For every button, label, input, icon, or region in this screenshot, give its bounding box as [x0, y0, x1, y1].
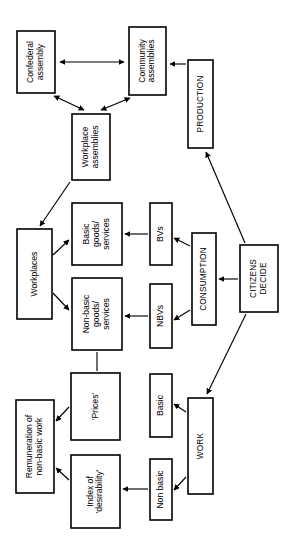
node-label-line: services [101, 298, 111, 330]
edge-prices-remuneration [56, 407, 69, 421]
node-label-consumption: CONSUMPTION [199, 247, 208, 311]
edge-index-remuneration [56, 468, 69, 480]
edge-workplaces-nonbasic [53, 293, 69, 310]
node-label-community-assemblies: Communityassemblies [137, 39, 157, 83]
node-label-citizens-decide: CITIZENSDECIDE [249, 259, 268, 298]
node-prices[interactable]: 'Prices' [71, 373, 120, 440]
node-label-work: WORK [196, 433, 205, 460]
node-community-assemblies[interactable]: Communityassemblies [129, 27, 166, 95]
node-label-line: Non basic [155, 470, 165, 509]
node-label-line: Workplaces [29, 252, 39, 297]
node-label-basic: Basic [155, 394, 165, 416]
flowchart-diagram: ConfederalassemblyCommunityassembliesWor… [0, 0, 296, 546]
edge-workplaces-basic [53, 240, 69, 255]
node-citizens-decide[interactable]: CITIZENSDECIDE [240, 245, 278, 312]
node-label-line: CONSUMPTION [199, 247, 208, 311]
node-label-line: Remuneration of [24, 414, 34, 478]
edge-work-basic [174, 404, 186, 412]
node-label-line: assemblies [90, 126, 100, 169]
node-nbvs[interactable]: NBVs [150, 284, 172, 348]
node-confederal-assembly[interactable]: Confederalassembly [17, 31, 55, 93]
node-label-line: 'desirability' [95, 469, 105, 513]
node-label-line: 'Prices' [90, 393, 100, 421]
node-label-line: assembly [35, 43, 45, 80]
edge-citizens-work [207, 314, 246, 394]
node-label-prices: 'Prices' [90, 393, 100, 421]
node-label-line: BVs [155, 226, 165, 242]
node-label-line: goods/ [91, 300, 101, 326]
node-workplaces[interactable]: Workplaces [17, 229, 52, 319]
node-label-line: DECIDE [259, 262, 268, 294]
edge-consumption-bvs [174, 238, 190, 246]
node-label-line: Basic [155, 394, 165, 416]
node-label-workplace-assemblies: Workplaceassemblies [80, 126, 100, 169]
node-consumption[interactable]: CONSUMPTION [192, 233, 216, 325]
flowchart-canvas: ConfederalassemblyCommunityassembliesWor… [0, 0, 296, 546]
nodes-layer: ConfederalassemblyCommunityassembliesWor… [16, 27, 278, 528]
node-production[interactable]: PRODUCTION [188, 60, 213, 148]
node-label-line: Community [137, 39, 147, 83]
node-label-line: NBVs [155, 305, 165, 327]
node-bvs[interactable]: BVs [150, 203, 172, 265]
node-workplace-assemblies[interactable]: Workplaceassemblies [72, 114, 110, 180]
node-label-line: PRODUCTION [196, 75, 205, 132]
node-label-nbvs: NBVs [155, 305, 165, 327]
node-work[interactable]: WORK [188, 398, 213, 494]
node-non-basic-goods-services[interactable]: Non-basicgoods/services [72, 278, 122, 350]
node-label-line: Index of [85, 476, 95, 507]
node-label-bvs: BVs [155, 226, 165, 242]
edge-workplaceassm-workplaces [40, 182, 70, 226]
node-non-basic[interactable]: Non basic [150, 459, 172, 520]
node-label-line: Basic [81, 223, 91, 245]
node-label-line: non-basic work [34, 417, 44, 475]
node-label-line: Workplace [80, 127, 90, 168]
node-label-workplaces: Workplaces [29, 252, 39, 297]
node-remuneration[interactable]: Remuneration ofnon-basic work [16, 400, 54, 493]
node-label-remuneration: Remuneration ofnon-basic work [24, 414, 44, 478]
edge-workplace-community [101, 98, 130, 110]
node-label-line: assemblies [147, 40, 157, 83]
edge-consumption-nbvs [174, 310, 190, 320]
node-label-non-basic: Non basic [155, 470, 165, 509]
edge-citizens-production [206, 152, 245, 243]
edge-work-nonbasic [174, 477, 186, 490]
node-label-line: WORK [196, 433, 205, 460]
node-index-of-desirability[interactable]: Index of'desirability' [71, 455, 120, 528]
node-label-line: Non-basic [81, 294, 91, 333]
node-label-confederal-assembly: Confederalassembly [25, 41, 45, 83]
node-label-line: goods/ [91, 220, 101, 246]
node-basic[interactable]: Basic [150, 374, 172, 437]
edge-workplace-confederal [54, 96, 84, 110]
node-label-line: CITIZENS [249, 259, 258, 298]
node-label-line: Confederal [25, 41, 35, 83]
node-label-line: services [101, 218, 111, 250]
node-label-production: PRODUCTION [196, 75, 205, 132]
node-basic-goods-services[interactable]: Basicgoods/services [72, 203, 122, 265]
